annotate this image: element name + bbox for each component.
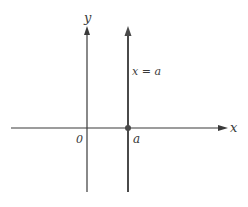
point-a-label: a	[133, 132, 140, 146]
point-a-marker	[125, 125, 131, 131]
equation-label: x = a	[132, 65, 161, 78]
coordinate-diagram: x y 0 x = a a	[0, 0, 248, 207]
origin-label: 0	[76, 133, 83, 146]
x-axis-arrow-icon	[218, 125, 228, 131]
y-axis-label: y	[83, 10, 92, 25]
y-axis-arrow-icon	[84, 26, 90, 35]
vertical-line-x-equals-a	[125, 26, 132, 192]
vertical-line-arrow-icon	[125, 26, 132, 36]
y-axis	[84, 26, 90, 192]
x-axis-label: x	[230, 120, 238, 135]
x-axis	[11, 125, 228, 131]
